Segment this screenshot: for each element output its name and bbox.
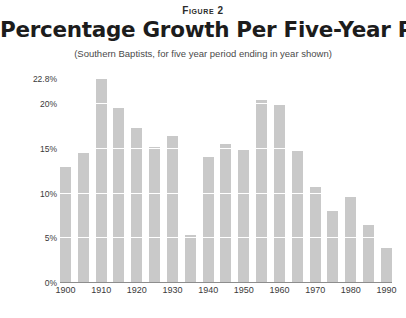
y-axis-tick-label: 15% (40, 144, 57, 154)
bar (238, 150, 249, 282)
bar (256, 100, 267, 282)
gridline (60, 103, 392, 104)
figure-label: Figure 2 (0, 5, 406, 16)
bar (310, 187, 321, 282)
bar (78, 153, 89, 282)
bar (203, 157, 214, 282)
bar (327, 211, 338, 282)
bar (185, 235, 196, 282)
x-axis-line (60, 282, 392, 283)
chart-subtitle: (Southern Baptists, for five year period… (0, 48, 406, 59)
x-axis-tick-label: 1900 (55, 285, 75, 295)
plot-area (60, 72, 392, 283)
bar (381, 248, 392, 282)
gridline (60, 237, 392, 238)
bar (220, 144, 231, 283)
bar (113, 108, 124, 282)
x-axis-tick-label: 1920 (127, 285, 147, 295)
gridline (60, 78, 392, 79)
gridline (60, 193, 392, 194)
x-axis-tick-label: 1990 (376, 285, 396, 295)
x-axis-tick-label: 1950 (234, 285, 254, 295)
bar (131, 128, 142, 282)
bar (96, 78, 107, 282)
bar (149, 147, 160, 282)
bar (167, 136, 178, 282)
bar (363, 225, 374, 282)
x-axis: 1900191019201930194019501960197019801990 (60, 285, 392, 305)
y-axis: 22.8%20%15%10%5%0% (0, 0, 57, 318)
x-axis-tick-label: 1910 (91, 285, 111, 295)
y-axis-tick-label: 22.8% (33, 74, 57, 84)
x-axis-tick-label: 1930 (162, 285, 182, 295)
chart-title: Percentage Growth Per Five-Year Period (0, 17, 406, 42)
x-axis-tick-label: 1940 (198, 285, 218, 295)
gridline (60, 148, 392, 149)
x-axis-tick-label: 1980 (341, 285, 361, 295)
chart-page: Figure 2 Percentage Growth Per Five-Year… (0, 0, 406, 318)
x-axis-tick-label: 1970 (305, 285, 325, 295)
x-axis-tick-label: 1960 (269, 285, 289, 295)
y-axis-tick-label: 20% (40, 99, 57, 109)
bar (292, 151, 303, 282)
y-axis-tick-label: 5% (45, 233, 57, 243)
bar (345, 197, 356, 282)
bar (60, 167, 71, 282)
y-axis-tick-label: 10% (40, 189, 57, 199)
